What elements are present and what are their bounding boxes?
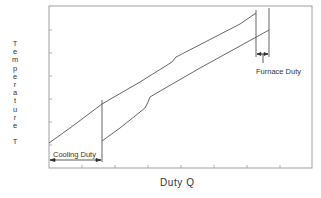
ylabel-symbol: T	[9, 138, 21, 146]
plot-frame	[49, 6, 312, 168]
x-axis-label: Duty Q	[160, 177, 195, 188]
furnace-duty-arrow	[257, 53, 268, 63]
ylabel-letter: e	[9, 122, 21, 130]
hot-composite-curve	[49, 13, 256, 143]
cooling-duty-label: Cooling Duty	[53, 150, 96, 159]
furnace-duty-label: Furnace Duty	[256, 67, 301, 76]
y-axis-label: T e m p e r a t u r e T	[9, 40, 21, 146]
composite-curves-chart	[0, 0, 321, 198]
cold-composite-curve	[102, 30, 269, 141]
